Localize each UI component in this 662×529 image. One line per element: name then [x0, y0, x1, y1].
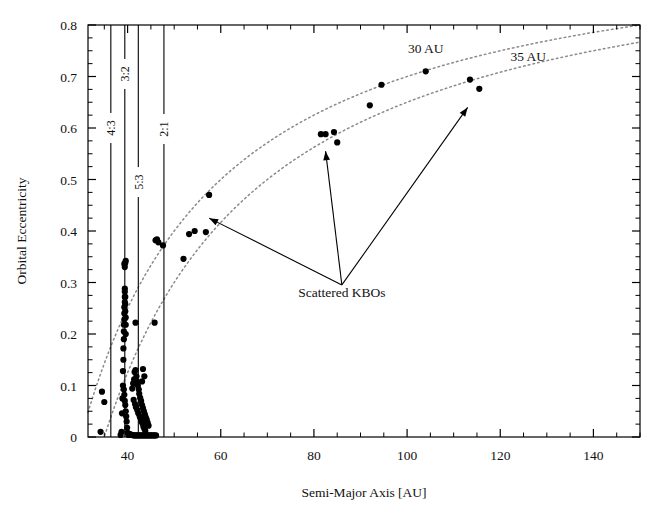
data-point	[206, 192, 212, 198]
data-point	[120, 345, 126, 351]
x-tick-label: 80	[307, 448, 321, 463]
data-point	[152, 320, 158, 326]
data-point	[122, 402, 128, 408]
data-point	[121, 261, 127, 267]
data-point	[160, 242, 166, 248]
resonance-label-5-3: 5:3	[132, 174, 146, 189]
data-point	[120, 357, 126, 363]
data-point	[322, 131, 328, 137]
data-point	[132, 367, 138, 373]
data-point	[141, 373, 147, 379]
x-tick-label: 120	[490, 448, 511, 463]
figure-container: 4:33:25:32:1 40608010012014000.10.20.30.…	[0, 0, 662, 529]
data-point	[378, 82, 384, 88]
data-point	[476, 86, 482, 92]
y-tick-label: 0.7	[60, 70, 77, 85]
data-point	[153, 432, 159, 438]
data-point	[122, 301, 128, 307]
y-tick-label: 0.6	[60, 121, 77, 136]
y-tick-label: 0.2	[60, 327, 77, 342]
data-point	[129, 385, 135, 391]
x-tick-label: 100	[397, 448, 418, 463]
annotation-curve-label-30au: 30 AU	[408, 41, 444, 56]
x-tick-label: 40	[121, 448, 135, 463]
x-tick-label: 140	[583, 448, 604, 463]
data-point	[122, 308, 128, 314]
data-point	[123, 331, 129, 337]
data-point	[192, 228, 198, 234]
data-point	[118, 429, 124, 435]
data-point	[124, 418, 130, 424]
data-point	[97, 429, 103, 435]
y-tick-label: 0.8	[60, 18, 77, 33]
annotation-scattered-kbos: Scattered KBOs	[298, 285, 385, 300]
data-point	[186, 231, 192, 237]
data-point	[99, 389, 105, 395]
data-point	[122, 286, 128, 292]
resonance-label-2-1: 2:1	[157, 121, 171, 136]
data-point	[123, 314, 129, 320]
annotation-curve-label-35au: 35 AU	[510, 49, 546, 64]
plot-background	[0, 0, 662, 529]
data-point	[122, 294, 128, 300]
data-point	[334, 139, 340, 145]
data-point	[331, 129, 337, 135]
y-tick-label: 0.4	[60, 224, 77, 239]
data-point	[367, 102, 373, 108]
data-point	[140, 366, 146, 372]
data-point	[467, 76, 473, 82]
x-axis-title: Semi-Major Axis [AU]	[301, 485, 426, 500]
y-tick-label: 0.3	[60, 276, 77, 291]
data-point	[121, 392, 127, 398]
data-point	[423, 68, 429, 74]
y-axis-title: Orbital Eccentricity	[14, 177, 29, 284]
data-point	[123, 322, 129, 328]
x-tick-label: 60	[214, 448, 228, 463]
data-point	[101, 399, 107, 405]
y-tick-label: 0.1	[60, 379, 77, 394]
y-tick-label: 0	[70, 430, 77, 445]
y-tick-label: 0.5	[60, 173, 77, 188]
data-point	[120, 368, 126, 374]
scatter-plot: 4:33:25:32:1 40608010012014000.10.20.30.…	[0, 0, 662, 529]
data-point	[203, 229, 209, 235]
data-point	[180, 256, 186, 262]
resonance-label-3-2: 3:2	[118, 66, 132, 81]
resonance-label-4-3: 4:3	[104, 120, 118, 135]
data-point	[132, 320, 138, 326]
